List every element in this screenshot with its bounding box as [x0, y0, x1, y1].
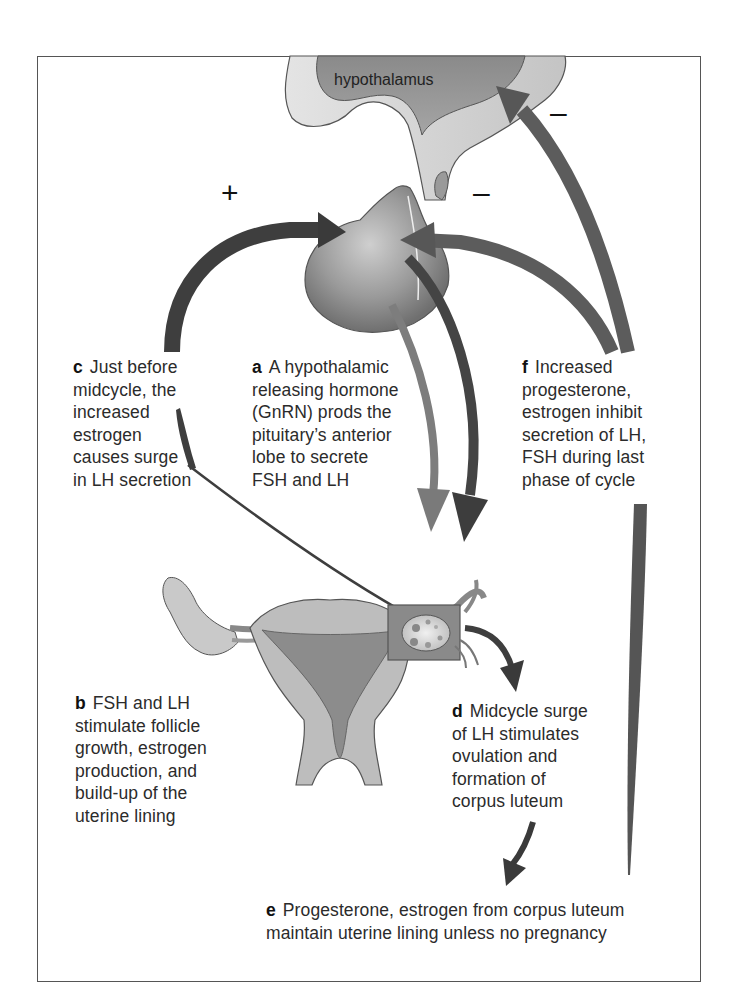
diagram-illustration	[0, 0, 736, 1007]
label-c: cJust before midcycle, the increased est…	[73, 356, 191, 491]
minus-sign-lower: –	[473, 178, 490, 208]
label-letter: e	[266, 900, 276, 920]
label-letter: f	[522, 357, 528, 377]
label-letter: d	[452, 701, 463, 721]
pituitary-illustration	[305, 186, 449, 332]
label-letter: b	[75, 693, 86, 713]
label-letter: c	[73, 357, 83, 377]
label-a: aA hypothalamic releasing hormone (GnRN)…	[252, 356, 399, 491]
arrow-a-fsh-lh-light	[392, 305, 450, 532]
uterus-illustration	[163, 577, 484, 785]
hypothalamus-label: hypothalamus	[334, 71, 434, 89]
arrow-d	[465, 628, 524, 692]
arrow-to-e	[503, 822, 533, 886]
minus-sign-upper: –	[550, 98, 567, 128]
label-f: fIncreased progesterone, estrogen inhibi…	[522, 356, 646, 491]
label-b: bFSH and LH stimulate follicle growth, e…	[75, 692, 207, 827]
arrow-f-to-e-line	[627, 504, 647, 875]
label-e: eProgesterone, estrogen from corpus lute…	[266, 899, 624, 944]
label-letter: a	[252, 357, 262, 377]
label-d: dMidcycle surge of LH stimulates ovulati…	[452, 700, 588, 813]
plus-sign: +	[221, 178, 239, 208]
